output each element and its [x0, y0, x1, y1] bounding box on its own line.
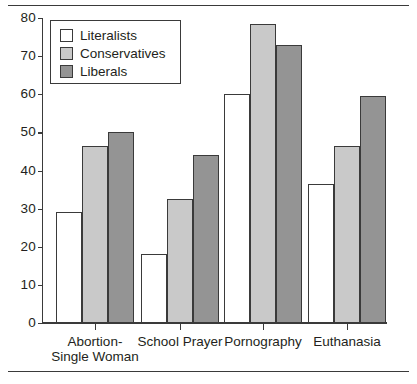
y-axis-tick — [38, 247, 42, 248]
x-axis-tick — [95, 323, 96, 330]
y-axis-tick — [38, 18, 42, 19]
x-axis-category-label-line: Abortion- — [51, 334, 139, 349]
y-axis-tick-label: 20 — [21, 240, 36, 254]
bar-liberals-2 — [193, 155, 219, 323]
x-axis-tick — [263, 323, 264, 330]
y-axis-tick — [38, 285, 42, 286]
y-axis-line — [42, 18, 43, 323]
bar-chart-figure: 01020304050607080 Abortion-Single WomanS… — [0, 0, 417, 384]
y-axis-tick-label: 40 — [21, 164, 36, 178]
y-axis-tick — [38, 132, 42, 133]
legend-label-conservatives: Conservatives — [80, 47, 166, 61]
bar-literalists-1 — [56, 212, 82, 323]
y-axis-tick — [38, 56, 42, 57]
legend-label-literalists: Literalists — [80, 29, 137, 43]
x-axis-category-label: Pornography — [224, 334, 301, 349]
y-axis-tick-label: 70 — [21, 49, 36, 63]
y-axis-tick — [38, 94, 42, 95]
top-divider-rule — [8, 5, 409, 6]
x-axis-category-label: Abortion-Single Woman — [51, 334, 139, 364]
bar-liberals-1 — [108, 132, 134, 323]
y-axis-tick-label: 30 — [21, 202, 36, 216]
y-axis-tick-label: 60 — [21, 88, 36, 102]
legend: Literalists Conservatives Liberals — [50, 20, 181, 84]
legend-label-liberals: Liberals — [80, 65, 127, 79]
x-axis-category-label-line: Pornography — [224, 334, 301, 349]
bottom-divider-rule — [8, 371, 409, 372]
y-axis-tick — [38, 323, 42, 324]
x-axis-category-label: Euthanasia — [313, 334, 381, 349]
x-axis-tick — [347, 323, 348, 330]
legend-item-literalists: Literalists — [60, 27, 180, 44]
x-axis-category-label-line: School Prayer — [138, 334, 223, 349]
x-axis-category-label: School Prayer — [138, 334, 223, 349]
y-axis-tick-label: 10 — [21, 278, 36, 292]
legend-swatch-conservatives-icon — [60, 47, 73, 60]
bar-liberals-3 — [276, 45, 302, 323]
y-axis-tick — [38, 209, 42, 210]
bar-literalists-2 — [141, 254, 167, 323]
bar-conservatives-4 — [334, 146, 360, 323]
bar-liberals-4 — [360, 96, 386, 323]
legend-item-liberals: Liberals — [60, 63, 180, 80]
y-axis-tick — [38, 171, 42, 172]
y-axis-tick-label: 0 — [28, 316, 36, 330]
y-axis-tick-label: 80 — [21, 11, 36, 25]
x-axis-tick — [180, 323, 181, 330]
legend-swatch-liberals-icon — [60, 65, 73, 78]
bar-literalists-4 — [308, 184, 334, 323]
x-axis-category-label-line: Euthanasia — [313, 334, 381, 349]
bar-conservatives-3 — [250, 24, 276, 323]
legend-swatch-literalists-icon — [60, 29, 73, 42]
y-axis-tick-label: 50 — [21, 126, 36, 140]
bar-literalists-3 — [224, 94, 250, 323]
bar-conservatives-2 — [167, 199, 193, 323]
legend-item-conservatives: Conservatives — [60, 45, 180, 62]
bar-conservatives-1 — [82, 146, 108, 323]
x-axis-category-label-line: Single Woman — [51, 349, 139, 364]
